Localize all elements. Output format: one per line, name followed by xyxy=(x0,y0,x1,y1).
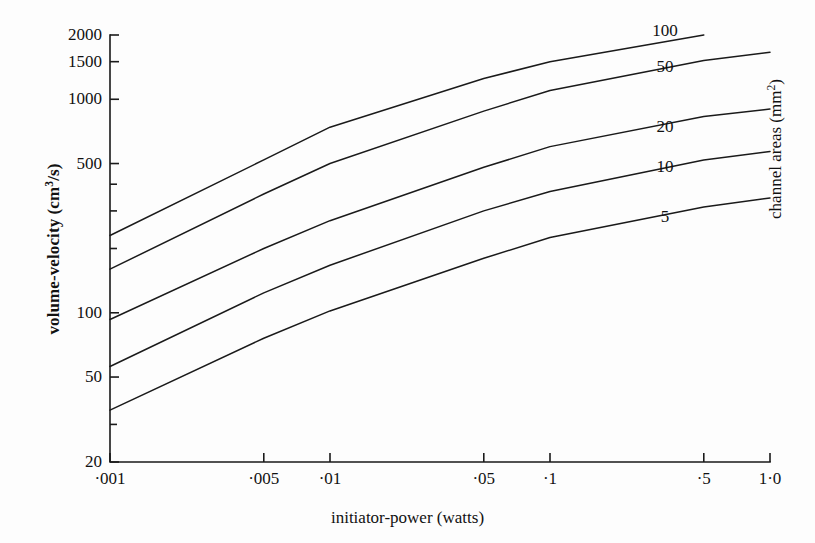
series-label-20: 20 xyxy=(645,116,685,137)
x-tick-label-1: 1·0 xyxy=(735,468,805,489)
x-tick-label-0_05: ·05 xyxy=(449,468,519,489)
x-tick-label-0_5: ·5 xyxy=(669,468,739,489)
right-axis-title: channel areas (mm2) xyxy=(765,0,791,299)
x-tick-label-0_001: ·001 xyxy=(75,468,145,489)
x-tick-label-0_01: ·01 xyxy=(295,468,365,489)
chart-plot-area xyxy=(0,0,815,543)
x-axis-ticks xyxy=(110,453,770,462)
x-tick-label-0_005: ·005 xyxy=(229,468,299,489)
x-axis-title: initiator-power (watts) xyxy=(0,508,815,528)
series-line-5 xyxy=(110,198,770,410)
series-label-10: 10 xyxy=(645,156,685,177)
y-tick-label-1500: 1500 xyxy=(32,51,102,72)
series-line-10 xyxy=(110,151,770,366)
y-tick-label-2000: 2000 xyxy=(32,24,102,45)
y-axis-ticks xyxy=(110,35,119,462)
axis-spines xyxy=(110,35,770,462)
series-line-100 xyxy=(110,35,704,236)
series-label-50: 50 xyxy=(645,56,685,77)
series-label-5: 5 xyxy=(645,206,685,227)
figure-canvas: 2000150010005001005020 ·001·005·01·05·1·… xyxy=(0,0,815,543)
series-label-100: 100 xyxy=(645,20,685,41)
y-axis-title: volume-velocity (cm3/s) xyxy=(43,99,69,399)
x-tick-label-0_1: ·1 xyxy=(515,468,585,489)
